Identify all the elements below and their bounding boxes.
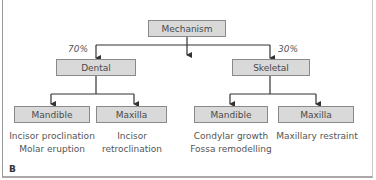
dental-maxilla-description: Incisor retroclination xyxy=(96,130,168,156)
dental-mandible-description: Incisor proclination Molar eruption xyxy=(4,130,100,156)
dental-percent: 70% xyxy=(68,44,88,54)
dental-maxilla-box: Maxilla xyxy=(96,106,167,123)
skeletal-percent: 30% xyxy=(278,44,298,54)
skeletal-mandible-description: Condylar growth Fossa remodelling xyxy=(184,130,278,156)
description-line: Condylar growth xyxy=(184,130,278,143)
dental-box: Dental xyxy=(56,59,136,76)
panel-label: B xyxy=(9,164,16,174)
skeletal-mandible-box: Mandible xyxy=(194,106,268,123)
description-line: Incisor xyxy=(96,130,168,143)
skeletal-maxilla-description: Maxillary restraint xyxy=(272,130,362,143)
mechanism-box: Mechanism xyxy=(148,20,226,37)
description-line: Molar eruption xyxy=(4,143,100,156)
skeletal-box: Skeletal xyxy=(232,59,310,76)
description-line: Incisor proclination xyxy=(4,130,100,143)
dental-mandible-box: Mandible xyxy=(14,106,90,123)
description-line: Maxillary restraint xyxy=(272,130,362,143)
description-line: retroclination xyxy=(96,143,168,156)
description-line: Fossa remodelling xyxy=(184,143,278,156)
skeletal-maxilla-box: Maxilla xyxy=(278,106,354,123)
